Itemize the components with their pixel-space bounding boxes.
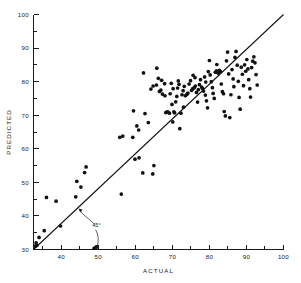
data-point (179, 111, 183, 115)
data-point (239, 65, 243, 69)
data-point (168, 92, 172, 96)
data-point (212, 97, 216, 101)
data-point (34, 241, 38, 245)
data-point (178, 127, 182, 131)
data-point (224, 114, 228, 118)
data-point (175, 95, 179, 99)
x-tick-label: 100 (278, 253, 289, 260)
data-point (160, 78, 164, 82)
data-point (174, 100, 178, 104)
data-point (75, 180, 79, 184)
data-point (250, 66, 254, 70)
y-tick-label: 50 (22, 179, 30, 186)
y-axis-ticks (34, 15, 39, 250)
data-point (206, 106, 210, 110)
data-point (208, 73, 212, 77)
data-point (83, 171, 87, 175)
data-point (219, 70, 223, 74)
data-point (247, 78, 251, 82)
data-point (205, 99, 209, 103)
data-point (231, 77, 235, 81)
data-point (241, 72, 245, 76)
data-point (149, 87, 153, 91)
data-point (137, 156, 141, 160)
y-axis-title: PREDICTED (5, 109, 12, 155)
data-point (37, 236, 41, 240)
data-point (169, 81, 173, 85)
x-tick-label: 40 (58, 253, 66, 260)
data-point (193, 76, 197, 80)
data-point (131, 136, 135, 140)
data-point (229, 93, 233, 97)
data-point (171, 120, 175, 124)
data-point (168, 111, 172, 115)
y-axis-tick-labels: 30405060708090100 (18, 11, 29, 253)
data-point (119, 192, 123, 196)
data-point (199, 78, 203, 82)
data-point (235, 63, 239, 67)
x-axis-tick-labels: 405060708090100 (58, 253, 290, 260)
data-point (187, 82, 191, 86)
data-point (45, 196, 49, 200)
data-point (196, 88, 200, 92)
data-point (242, 84, 246, 88)
data-point (170, 103, 174, 107)
forty-five-degree-reference-line (34, 15, 284, 250)
x-axis-title: ACTUAL (143, 267, 174, 274)
y-tick-label: 40 (22, 212, 30, 219)
data-point (132, 109, 136, 113)
data-point (237, 96, 241, 100)
data-point (222, 92, 226, 96)
data-point (135, 124, 139, 128)
data-point (209, 80, 213, 84)
y-tick-label: 30 (22, 246, 30, 253)
data-point (137, 128, 141, 132)
data-point (234, 50, 238, 54)
data-point (243, 63, 247, 67)
y-tick-label: 80 (22, 78, 30, 85)
data-point (156, 76, 160, 80)
data-point (173, 111, 177, 115)
data-point (204, 80, 208, 84)
data-point (79, 185, 83, 189)
x-tick-label: 70 (169, 253, 177, 260)
y-tick-label: 100 (18, 11, 29, 18)
data-point (211, 92, 215, 96)
data-point (180, 93, 184, 97)
x-tick-label: 60 (132, 253, 140, 260)
data-point (151, 172, 155, 176)
data-point (230, 68, 234, 72)
data-point (84, 165, 88, 169)
angle-annotation-label: 45° (92, 222, 100, 228)
data-point (219, 82, 223, 86)
data-point (42, 229, 46, 233)
y-tick-label: 90 (22, 44, 30, 51)
data-point (227, 72, 231, 76)
data-point (163, 94, 167, 98)
data-point (236, 79, 240, 83)
data-point (189, 79, 193, 83)
y-tick-label: 70 (22, 112, 30, 119)
data-point (254, 73, 258, 77)
data-point (233, 56, 237, 60)
data-point (225, 59, 229, 63)
data-point (196, 100, 200, 104)
data-point (238, 107, 242, 111)
data-point (253, 61, 257, 65)
data-point (152, 164, 156, 168)
data-point (249, 95, 253, 99)
data-point (171, 87, 175, 91)
data-point (211, 86, 215, 90)
data-point (176, 79, 180, 83)
data-point (194, 84, 198, 88)
data-point (182, 105, 186, 109)
x-tick-label: 90 (243, 253, 251, 260)
data-point (155, 66, 159, 70)
data-point (159, 88, 163, 92)
data-point (232, 85, 236, 89)
data-point (204, 93, 208, 97)
x-tick-label: 50 (95, 253, 103, 260)
data-point (186, 91, 190, 95)
data-point (163, 82, 167, 86)
data-point (176, 86, 180, 90)
